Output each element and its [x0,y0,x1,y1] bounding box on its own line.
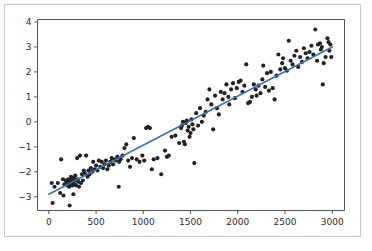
data-point [163,149,167,153]
x-tick-label: 500 [87,217,104,227]
data-point [250,95,254,99]
data-point [192,161,196,165]
data-point [322,61,326,65]
data-point [280,61,284,65]
data-point [318,41,322,45]
y-tick-label: −1 [18,142,31,152]
data-point [294,49,298,53]
data-point [104,159,108,163]
data-point [290,62,294,66]
y-tick-marks [34,22,38,197]
data-point [73,173,77,177]
data-point [292,54,296,58]
data-point [263,85,267,89]
data-point [229,87,233,91]
data-point [200,120,204,124]
data-point [304,51,308,55]
data-point [309,44,313,48]
y-tick-label: −2 [18,167,31,177]
data-point [242,84,246,88]
data-point [258,91,262,95]
data-point [209,102,213,106]
data-point [267,89,271,93]
data-point [289,59,293,63]
data-point [248,100,252,104]
data-point [152,157,156,161]
data-point [235,86,239,90]
data-point [227,102,231,106]
data-point [183,142,187,146]
data-point [226,95,230,99]
data-point [328,42,332,46]
chart-figure: 050010001500200025003000 −3−2−101234 [0,0,372,251]
scatter-points [50,27,334,207]
data-point [273,97,277,101]
data-point [122,146,126,150]
data-point [128,165,132,169]
data-point [89,166,93,170]
y-tick-label: 3 [26,42,32,52]
y-tick-label: 0 [26,117,32,127]
data-point [170,135,174,139]
data-point [325,36,329,40]
x-tick-label: 3000 [321,217,344,227]
data-point [255,94,259,98]
data-point [198,106,202,110]
data-point [140,154,144,158]
data-point [191,127,195,131]
data-point [137,160,141,164]
data-point [261,64,265,68]
y-tick-labels: −3−2−101234 [18,17,32,202]
y-tick-label: 2 [26,67,32,77]
data-point [221,97,225,101]
data-point [81,178,85,182]
data-point [329,55,333,59]
data-point [219,90,223,94]
data-point [167,154,171,158]
data-point [177,141,181,145]
data-point [252,82,256,86]
data-point [196,124,200,128]
data-point [207,87,211,91]
data-point [77,185,81,189]
data-point [269,70,273,74]
data-point [278,67,282,71]
data-point [155,156,159,160]
data-point [271,86,275,90]
data-point [276,52,280,56]
data-point [217,112,221,116]
data-point [117,185,121,189]
x-tick-labels: 050010001500200025003000 [46,217,344,227]
data-point [231,81,235,85]
data-point [150,167,154,171]
x-tick-label: 0 [46,217,52,227]
data-point [58,191,62,195]
y-tick-label: 4 [26,17,32,27]
data-point [205,97,209,101]
data-point [94,163,98,167]
data-point [130,156,134,160]
data-point [68,203,72,207]
data-point [307,50,311,54]
data-point [188,135,192,139]
data-point [313,27,317,31]
data-point [244,62,248,66]
data-point [224,82,228,86]
data-point [124,142,128,146]
y-tick-label: 1 [26,92,32,102]
data-point [52,185,56,189]
data-point [61,193,65,197]
data-point [59,157,63,161]
data-point [213,94,217,98]
data-point [239,79,243,83]
data-point [148,126,152,130]
scatter-plot-canvas: 050010001500200025003000 −3−2−101234 [0,0,372,251]
x-tick-label: 2000 [226,217,249,227]
data-point [302,46,306,50]
data-point [188,131,192,135]
data-point [91,160,95,164]
data-point [222,91,226,95]
data-point [84,154,88,158]
x-tick-label: 1500 [179,217,202,227]
data-point [173,134,177,138]
